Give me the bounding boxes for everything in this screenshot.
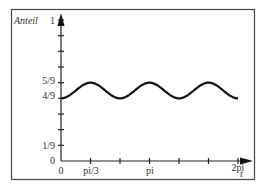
- y-tick-label-0: 0: [50, 155, 55, 166]
- y-tick-label-4-9: 4/9: [42, 90, 55, 101]
- y-tick-label-1-9: 1/9: [42, 140, 55, 151]
- x-tick-label-pi-3: pi/3: [83, 165, 99, 176]
- chart-canvas: Anteil t 1 5/9 4/9 1/9 0 0 pi/3 pi 2pi: [0, 0, 265, 189]
- y-axis-label: Anteil: [13, 15, 38, 26]
- x-tick-label-0: 0: [59, 165, 64, 176]
- y-tick-label-1: 1: [50, 15, 55, 26]
- x-tick-label-pi: pi: [146, 165, 154, 176]
- x-tick-label-2pi: 2pi: [232, 162, 245, 173]
- y-tick-label-5-9: 5/9: [42, 75, 55, 86]
- data-line: [61, 83, 238, 99]
